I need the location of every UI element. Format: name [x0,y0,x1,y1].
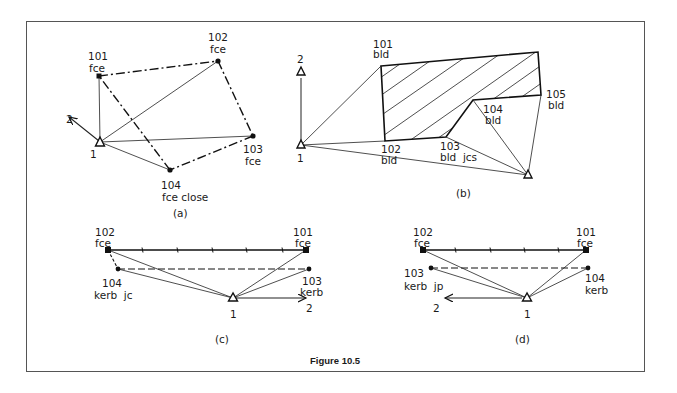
panel-label: (a) [173,207,188,219]
orientation-label: 2 [306,302,313,314]
point-id: 104 [102,277,122,289]
point-marker-icon [215,58,220,63]
panel-label: (d) [515,333,530,345]
point-code: kerb [585,284,608,296]
station-triangle-icon [297,67,305,75]
orientation-label: 2 [66,113,73,125]
station-label: 1 [90,148,97,160]
figure-10-5: 2 1 101 fce 102 fce 103 fce 104 fce clos… [0,0,677,393]
station-label: 1 [297,152,304,164]
point-marker-icon [167,167,172,172]
point-code: fce [245,155,261,167]
point-code: fce [89,62,105,74]
orientation-label: 2 [297,53,304,65]
panel-label: (b) [456,187,471,199]
panel-c: 102 fce 101 fce 104 kerb jc 103 kerb 1 2… [94,226,323,345]
station-label: 1 [524,308,531,320]
point-code: fce [95,237,111,249]
point-id: 101 [88,50,108,62]
point-code: kerb [300,286,323,298]
point-code: fce close [162,191,208,203]
point-id: 104 [161,179,181,191]
station-triangle-icon [297,140,305,148]
point-marker-icon [97,74,102,79]
orientation-label: 2 [433,302,440,314]
point-code: bld [548,99,564,111]
panel-label: (c) [215,333,229,345]
point-code: bld [485,114,501,126]
station-label: 1 [230,308,237,320]
point-marker-icon [429,266,434,271]
point-code: fce [577,237,593,249]
point-code: fce [295,237,311,249]
point-code: fce [210,43,226,55]
point-id: 103 [243,143,263,155]
point-code: kerb jc [94,289,133,301]
point-code: fce [414,237,430,249]
point-code: bld [373,48,389,60]
point-marker-icon [250,133,255,138]
point-code: bld [381,154,397,166]
panel-b: 2 1 101 bld 102 bld 103 bld jcs 104 bld … [297,38,566,199]
point-marker-icon [586,266,591,271]
figure-caption: Figure 10.5 [310,355,361,366]
point-marker-icon [116,267,121,272]
orientation-arrow-icon [69,117,99,141]
point-code: bld jcs [440,151,477,163]
point-id: 103 [404,267,424,279]
point-code: kerb jp [404,280,444,292]
point-marker-icon [307,267,312,272]
point-id: 102 [208,31,228,43]
panel-a: 2 1 101 fce 102 fce 103 fce 104 fce clos… [66,31,263,219]
panel-d: 102 fce 101 fce 103 kerb jp 104 kerb 1 2… [404,226,608,345]
point-id: 104 [585,272,605,284]
